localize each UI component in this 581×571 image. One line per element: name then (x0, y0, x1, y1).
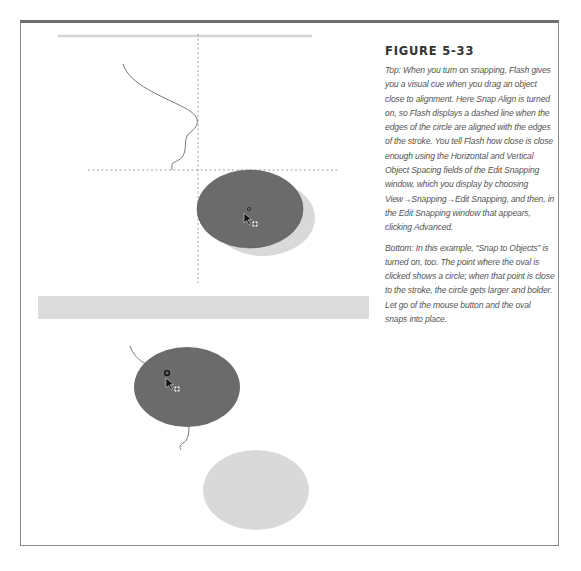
divider-band (38, 296, 369, 319)
top-move-cursor-icon (252, 221, 258, 227)
caption-top-paragraph: Top: When you turn on snapping, Flash gi… (385, 63, 555, 235)
figure-title: FIGURE 5-33 (385, 44, 555, 58)
caption-bottom-paragraph: Bottom: In this example, “Snap to Object… (385, 241, 555, 327)
bottom-stroke-top (130, 346, 146, 364)
bottom-dark-oval[interactable] (134, 347, 240, 427)
top-stroke-curve (123, 64, 197, 170)
bottom-stroke-bottom (180, 427, 189, 450)
bottom-light-oval (203, 450, 309, 530)
figure-caption: FIGURE 5-33 Top: When you turn on snappi… (385, 44, 555, 332)
top-dark-oval[interactable] (197, 170, 303, 248)
bottom-move-cursor-icon (174, 386, 180, 392)
